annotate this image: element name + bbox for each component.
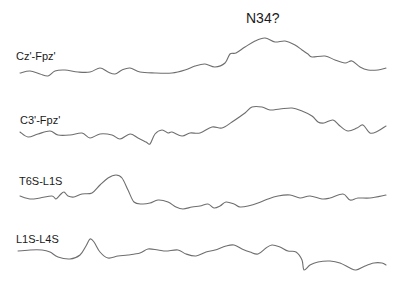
trace-t6s-l1s	[20, 175, 386, 209]
trace-cz-fpz	[20, 38, 386, 76]
evoked-potential-figure: N34? Cz'-Fpz' C3'-Fpz' T6S-L1S L1S-L4S	[0, 0, 400, 284]
traces-plot	[0, 0, 400, 284]
trace-c3-fpz	[20, 106, 386, 144]
trace-l1s-l4s	[18, 239, 386, 270]
